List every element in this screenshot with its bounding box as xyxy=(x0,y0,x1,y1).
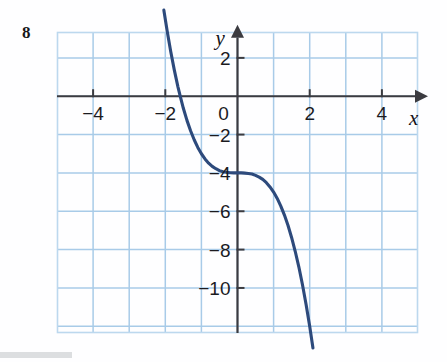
x-tick-label: 2 xyxy=(304,104,315,123)
y-axis-label: y xyxy=(216,28,225,49)
x-tick-label: −4 xyxy=(82,104,104,123)
x-tick-label: −2 xyxy=(154,104,176,123)
page-edge-artifact xyxy=(0,352,72,358)
x-axis-label: x xyxy=(409,108,418,129)
x-tick-label: 4 xyxy=(377,104,388,123)
y-tick-label: −6 xyxy=(209,202,231,221)
origin-label: 0 xyxy=(218,104,229,123)
function-curve-layer xyxy=(57,32,418,333)
function-curve xyxy=(164,10,313,348)
y-tick-label: −10 xyxy=(198,278,230,297)
coordinate-plane: −4−2242−2−4−6−8−100 x y xyxy=(57,32,418,333)
y-tick-label: −8 xyxy=(209,240,231,259)
y-tick-label: −4 xyxy=(209,163,231,182)
y-tick-label: 2 xyxy=(220,48,231,67)
problem-number-label: 8 xyxy=(22,24,31,41)
math-figure: 8 −4−2242−2−4−6−8−100 x y xyxy=(0,0,447,362)
y-tick-label: −2 xyxy=(209,125,231,144)
